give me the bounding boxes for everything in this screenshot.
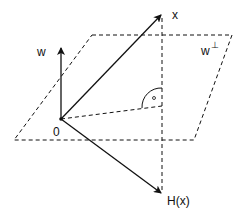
- vector-x-arrow: [61, 15, 161, 119]
- w-label: w: [36, 45, 46, 59]
- right-angle-dot: [153, 97, 156, 100]
- origin-point: [59, 117, 63, 121]
- vector-hx-arrow: [61, 119, 161, 193]
- origin-label: 0: [53, 125, 60, 139]
- x-label: x: [172, 8, 178, 22]
- hx-label: H(x): [167, 194, 190, 208]
- w-perp-label: w: [200, 44, 210, 58]
- hyperplane-parallelogram: [14, 35, 232, 140]
- projection-dashed-line: [61, 106, 162, 119]
- right-angle-arc: [142, 88, 162, 108]
- w-perp-superscript: ⊥: [211, 40, 219, 50]
- householder-reflection-diagram: 0 w x w ⊥ H(x): [0, 0, 241, 216]
